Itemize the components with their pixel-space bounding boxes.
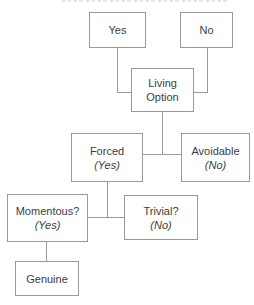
node-avoidable-qualifier: (No) — [205, 158, 226, 172]
node-no: No — [180, 12, 233, 48]
node-living-option-label: Living Option — [136, 76, 189, 104]
node-forced: Forced (Yes) — [71, 133, 143, 182]
edge-momentous-to-genuine-vertical — [46, 242, 47, 261]
node-no-label: No — [199, 23, 213, 37]
node-trivial-label: Trivial? — [143, 204, 178, 218]
flowchart-canvas: Yes No Living Option Forced (Yes) Avoida… — [0, 0, 254, 305]
node-trivial-qualifier: (No) — [150, 218, 171, 232]
node-yes: Yes — [89, 12, 146, 48]
node-trivial: Trivial? (No) — [124, 195, 198, 240]
node-avoidable-label: Avoidable — [191, 144, 239, 158]
edge-momentous-trivial-horizontal — [88, 217, 124, 218]
node-momentous: Momentous? (Yes) — [7, 194, 88, 242]
edge-forced-avoidable-horizontal — [143, 154, 181, 155]
edge-forced-to-branch-vertical — [107, 182, 108, 217]
node-momentous-qualifier: (Yes) — [35, 218, 61, 232]
cropped-caption-remnant — [62, 0, 228, 2]
node-living-option: Living Option — [131, 68, 194, 112]
edge-yes-to-living-horizontal — [117, 92, 131, 93]
node-forced-qualifier: (Yes) — [94, 158, 120, 172]
node-forced-label: Forced — [90, 144, 124, 158]
node-momentous-label: Momentous? — [16, 204, 80, 218]
node-avoidable: Avoidable (No) — [181, 133, 250, 182]
edge-living-to-branch-vertical — [162, 112, 163, 154]
edge-no-to-living-horizontal — [194, 92, 208, 93]
edge-no-to-living-vertical — [207, 48, 208, 92]
node-genuine-label: Genuine — [26, 272, 68, 286]
edge-yes-to-living-vertical — [117, 48, 118, 92]
node-yes-label: Yes — [109, 23, 127, 37]
node-genuine: Genuine — [15, 261, 79, 296]
